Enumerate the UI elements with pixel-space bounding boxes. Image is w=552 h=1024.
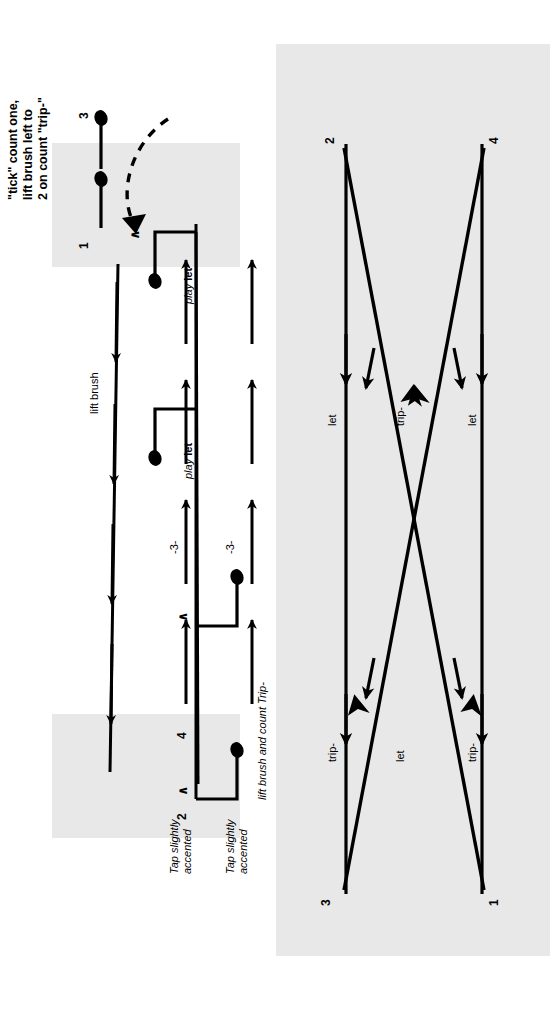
syllable-label-0: trip- bbox=[326, 743, 339, 762]
beat-number-3: 3 bbox=[78, 112, 92, 119]
label-play-let-lower: play let bbox=[182, 443, 195, 479]
beat-number-1: 1 bbox=[78, 242, 92, 249]
triplet-marker-upper: -3- bbox=[168, 541, 181, 554]
brush-sweep-path-diagram: 1 2 3 4 trip- let trip- let trip- let bbox=[276, 0, 546, 1024]
beat-number-4: 4 bbox=[176, 732, 190, 739]
play-word-upper: play bbox=[182, 284, 194, 304]
label-tap-accented-upper: Tap slightly accented bbox=[168, 819, 193, 874]
play-word-lower: play bbox=[182, 459, 194, 479]
endpoint-number-2: 2 bbox=[324, 137, 338, 144]
instruction-note: "tick" count one, lift brush left to 2 o… bbox=[6, 97, 51, 200]
accent-mark-left-a: ∧ bbox=[176, 785, 191, 796]
label-play-let-upper: play let bbox=[182, 268, 195, 304]
label-tap-accented-lower: Tap slightly accented bbox=[224, 819, 249, 874]
accent-mark-upper: ∧ bbox=[128, 229, 143, 240]
let-word-upper: let bbox=[182, 268, 194, 281]
syllable-label-5: let bbox=[466, 414, 479, 426]
endpoint-number-3: 3 bbox=[320, 899, 334, 906]
let-word-lower: let bbox=[182, 443, 194, 456]
brush-stroke-pattern-diagram: "tick" count one, lift brush left to 2 o… bbox=[0, 0, 270, 1024]
accent-mark-left-b: ∧ bbox=[176, 611, 191, 622]
label-lift-and-count: lift brush and count Trip- bbox=[256, 682, 269, 800]
syllable-label-1: let bbox=[394, 750, 407, 762]
label-lift-brush: lift brush bbox=[88, 372, 101, 414]
syllable-label-4: trip- bbox=[394, 407, 407, 426]
endpoint-number-4: 4 bbox=[488, 137, 502, 144]
endpoint-number-1: 1 bbox=[488, 899, 502, 906]
triplet-marker-lower: -3- bbox=[224, 541, 237, 554]
syllable-label-3: let bbox=[326, 414, 339, 426]
sweep-paths bbox=[276, 0, 552, 1024]
syllable-label-2: trip- bbox=[466, 743, 479, 762]
